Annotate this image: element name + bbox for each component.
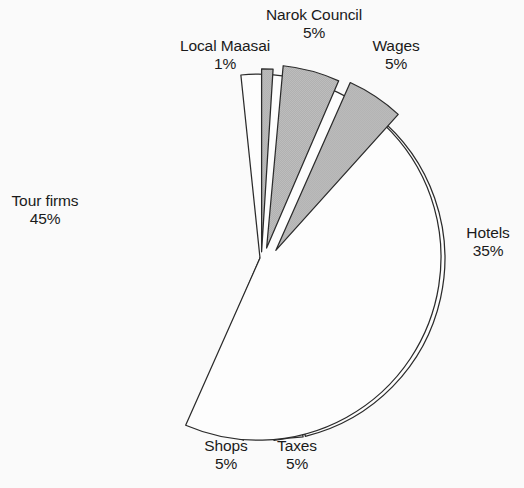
label-taxes-name: Taxes — [264, 437, 330, 455]
label-local-maasai: Local Maasai 1% — [172, 37, 278, 73]
label-local-maasai-name: Local Maasai — [172, 37, 278, 55]
label-narok-council-name: Narok Council — [254, 6, 374, 24]
label-hotels-name: Hotels — [455, 224, 521, 242]
label-local-maasai-value: 1% — [172, 55, 278, 73]
label-shops-name: Shops — [190, 437, 262, 455]
label-hotels: Hotels 35% — [455, 224, 521, 260]
label-tour-firms-value: 45% — [4, 210, 86, 228]
label-shops: Shops 5% — [190, 437, 262, 473]
label-taxes-value: 5% — [264, 455, 330, 473]
label-shops-value: 5% — [190, 455, 262, 473]
label-taxes: Taxes 5% — [264, 437, 330, 473]
pie-chart-canvas — [0, 0, 524, 488]
label-hotels-value: 35% — [455, 242, 521, 260]
label-tour-firms-name: Tour firms — [4, 192, 86, 210]
label-tour-firms: Tour firms 45% — [4, 192, 86, 228]
label-wages-name: Wages — [356, 37, 436, 55]
label-wages-value: 5% — [356, 55, 436, 73]
label-wages: Wages 5% — [356, 37, 436, 73]
pie-chart-figure: Narok Council 5% Local Maasai 1% Wages 5… — [0, 0, 524, 488]
